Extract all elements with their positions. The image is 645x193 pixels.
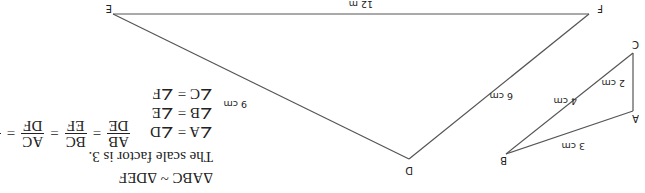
ratio-one-third: 1 3 (0, 118, 1, 149)
vertex-d-label: D (405, 165, 413, 176)
vertex-b-label: B (500, 155, 507, 166)
similarity-statement: ΔABC ~ ΔDEF (119, 169, 213, 187)
ratio-ac-df: AC DF (21, 118, 44, 149)
vertex-e-label: E (106, 3, 112, 14)
side-ac-label: 2 cm (601, 78, 625, 89)
ratio-equation: AB DE = BC EF = AC DF = 1 3 (0, 118, 132, 149)
side-de-label: 9 cm (223, 99, 247, 110)
triangle-abc: A B C 3 cm 4 cm 2 cm (500, 39, 639, 166)
ratio-ab-de: AB DE (107, 118, 130, 149)
scale-factor-statement: The scale factor is 3. (88, 148, 213, 166)
vertex-c-label: C (632, 39, 639, 50)
ratio-bc-ef: BC EF (65, 118, 87, 149)
vertex-f-label: F (597, 3, 603, 14)
side-ab-label: 3 cm (561, 141, 585, 152)
rotated-diagram: A B C 3 cm 4 cm 2 cm D E F 9 cm 12 m 6 c… (0, 0, 645, 193)
side-bc-label: 4 cm (553, 96, 577, 107)
side-df-label: 6 cm (489, 91, 513, 102)
angle-c-statement: ∠C = ∠F (153, 85, 213, 103)
angle-b-statement: ∠B = ∠E (152, 104, 213, 122)
angle-a-statement: ∠A = ∠D (150, 123, 213, 141)
side-ef-label: 12 m (349, 0, 373, 10)
vertex-a-label: A (632, 113, 639, 124)
